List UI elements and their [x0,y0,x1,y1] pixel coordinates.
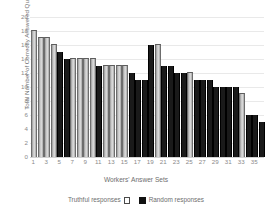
bar-11-random [96,66,102,157]
filled-square-icon [139,197,146,204]
x-axis-tick-label: 17 [134,159,141,165]
legend-entry-random: Random responses [139,197,204,204]
y-axis-tick-label: 18 [2,28,28,34]
chart-legend: Truthful responses Random responses [0,197,272,204]
y-axis-tick-label: 12 [2,70,28,76]
bar-17-random [135,80,141,157]
bar-7-truthful [70,58,76,157]
hollow-square-icon [124,197,131,204]
x-axis-tick-label: 3 [45,159,48,165]
x-axis-tick-label: 33 [238,159,245,165]
bar-32-random [233,87,239,157]
bar-23-random [174,73,180,157]
bar-35-random [252,115,258,157]
bar-25-truthful [187,72,193,157]
y-axis-tick-label: 4 [2,126,28,132]
legend-entry-truthful: Truthful responses [68,197,130,204]
bar-19-random [148,45,154,157]
bar-14-truthful [116,65,122,157]
x-axis-tick-label: 23 [173,159,180,165]
legend-label-random: Random responses [149,197,204,203]
bar-12-truthful [103,65,109,157]
x-axis-tick-label: 19 [147,159,154,165]
x-axis-tick-container: 1357911131517192123252729313335 [30,159,264,170]
bar-30-random [220,87,226,157]
bar-1-truthful [31,30,37,157]
bar-3-truthful [44,37,50,157]
bar-16-random [129,73,135,157]
bar-18-random [142,80,148,157]
y-axis-tick-container: 20181614121086420 [0,0,28,216]
x-axis-label: Workers' Answer Sets [0,177,272,184]
bar-27-random [200,80,206,157]
x-axis-tick-label: 11 [95,159,101,165]
x-axis-tick-label: 35 [251,159,258,165]
bar-36-random [259,122,265,157]
x-axis-tick-label: 21 [160,159,167,165]
x-axis-tick-label: 5 [58,159,61,165]
x-axis-tick-label: 31 [225,159,232,165]
bar-8-truthful [77,58,83,157]
bar-5-random [57,52,63,157]
bar-4-truthful [51,44,57,157]
y-axis-tick-label: 14 [2,56,28,62]
bar-6-random [64,59,70,157]
bar-33-truthful [239,93,245,157]
x-axis-tick-label: 7 [71,159,74,165]
bar-28-random [207,80,213,157]
chart-figure: Total Number of Correctly Answered Quest… [0,0,272,216]
bar-24-random [181,73,187,157]
y-axis-tick-label: 6 [2,112,28,118]
y-axis-tick-label: 10 [2,84,28,90]
x-axis-tick-label: 13 [108,159,115,165]
bar-26-random [194,80,200,157]
y-axis-tick-label: 8 [2,98,28,104]
x-axis-tick-label: 25 [186,159,193,165]
x-axis-tick-label: 29 [212,159,219,165]
x-axis-tick-label: 9 [84,159,87,165]
bar-2-truthful [38,37,44,157]
bar-10-truthful [90,58,96,157]
x-axis-tick-label: 27 [199,159,206,165]
y-axis-tick-label: 16 [2,42,28,48]
bar-series-container [30,17,264,157]
y-axis-tick-label: 0 [2,154,28,160]
bar-20-truthful [155,44,161,157]
bar-15-truthful [122,65,128,157]
bar-21-random [161,66,167,157]
x-axis-tick-label: 15 [121,159,128,165]
y-axis-tick-label: 2 [2,140,28,146]
bar-13-truthful [109,65,115,157]
y-axis-tick-label: 20 [2,14,28,20]
legend-label-truthful: Truthful responses [68,197,121,203]
bar-31-random [226,87,232,157]
bar-22-random [168,66,174,157]
bar-34-random [246,115,252,157]
bar-9-truthful [83,58,89,157]
x-axis-tick-label: 1 [32,159,35,165]
bar-29-random [213,87,219,157]
